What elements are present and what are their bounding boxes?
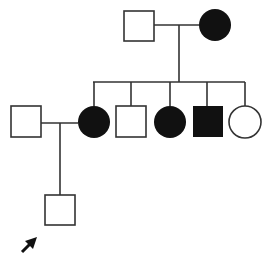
proband-arrow-icon	[22, 237, 37, 252]
pedigree-chart	[0, 0, 269, 261]
individual-II-5-male-affected	[193, 106, 223, 137]
individual-II-4-female-affected	[154, 106, 186, 138]
individual-I-2-female-affected	[199, 9, 231, 41]
individual-II-3-male-unaffected	[116, 106, 146, 137]
individual-III-1-proband-male	[45, 195, 75, 225]
individual-II-1-male-unaffected	[11, 106, 41, 137]
individual-I-1-male-unaffected	[124, 11, 154, 41]
individual-II-2-female-affected	[78, 106, 110, 138]
individual-II-6-female-unaffected	[229, 106, 261, 138]
